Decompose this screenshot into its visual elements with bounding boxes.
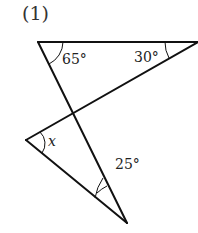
angle-label-25: 25° [115,157,140,171]
angle-arc-x [40,132,45,153]
geometry-figure [0,0,198,233]
angle-label-65: 65° [62,52,87,66]
angle-arc-30 [165,42,169,58]
angle-arc-25-outer [95,178,103,198]
angle-arc-65 [49,42,63,64]
angle-label-30: 30° [134,50,159,64]
bottom-edge [26,140,127,223]
right-diagonal [26,42,198,140]
angle-label-x: x [48,134,56,148]
